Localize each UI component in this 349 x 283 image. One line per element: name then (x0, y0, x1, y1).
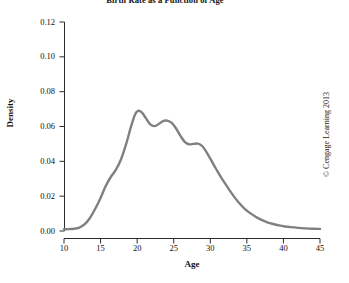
copyright-watermark: © Cengage Learning 2013 (322, 65, 331, 205)
y-axis-ticks (60, 22, 65, 231)
plot-area (0, 0, 349, 283)
chart-figure: Birth Rate as a Function of Age Density … (0, 0, 349, 283)
axis-lines (64, 22, 320, 239)
density-curve (64, 111, 320, 230)
x-axis-ticks (64, 239, 320, 244)
